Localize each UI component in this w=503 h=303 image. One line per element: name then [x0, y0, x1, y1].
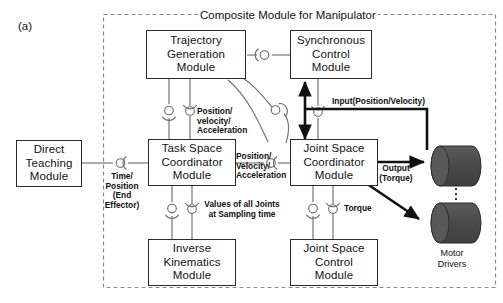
- module-joint-space-control[interactable]: Joint Space Control Module: [290, 239, 378, 286]
- edge-traj-to-joint-curve-b: [284, 114, 289, 143]
- edge-label-torque: Torque: [344, 204, 372, 214]
- edge-label-values-line-2: at Sampling time: [196, 210, 288, 220]
- panel-label: (a): [18, 20, 32, 32]
- module-joint-space-coordinator-line-3: Module: [315, 169, 353, 183]
- ball-icon: [271, 106, 280, 115]
- module-inverse-kinematics[interactable]: Inverse Kinematics Module: [148, 239, 236, 286]
- module-direct-teaching-line-3: Module: [30, 170, 68, 184]
- module-trajectory-generation[interactable]: Trajectory Generation Module: [146, 30, 246, 79]
- module-task-space-coordinator-line-2: Coordinator: [161, 156, 222, 170]
- motor-driver-top: [431, 146, 481, 186]
- edge-label-position-velocity-acceleration-horizontal: Position/ Velocity/ Acceleration: [236, 152, 286, 181]
- module-joint-space-control-line-1: Joint Space: [303, 242, 364, 256]
- module-inverse-kinematics-line-2: Kinematics: [163, 256, 220, 270]
- edge-label-output-torque-line-2: (Torque): [371, 174, 421, 184]
- module-trajectory-generation-line-3: Module: [177, 61, 215, 75]
- module-joint-space-control-line-2: Control: [315, 256, 353, 270]
- edge-label-output-torque: Output (Torque): [371, 164, 421, 183]
- module-joint-space-control-line-3: Module: [315, 269, 353, 283]
- module-task-space-coordinator-line-1: Task Space: [162, 142, 222, 156]
- module-synchronous-control-line-2: Control: [312, 48, 350, 62]
- edge-label-pva-h-line-3: Acceleration: [236, 171, 286, 181]
- module-joint-space-coordinator-line-2: Coordinator: [303, 156, 364, 170]
- ball-icon: [168, 204, 177, 213]
- edge-label-values-all-joints: Values of all Joints at Sampling time: [196, 200, 288, 219]
- module-synchronous-control[interactable]: Synchronous Control Module: [290, 30, 372, 79]
- edge-label-input-position-velocity: Input(Position/Velocity): [332, 97, 425, 107]
- module-trajectory-generation-line-1: Trajectory: [170, 34, 222, 48]
- module-synchronous-control-line-1: Synchronous: [297, 34, 365, 48]
- module-direct-teaching-line-2: Teaching: [26, 157, 73, 171]
- module-joint-space-coordinator-line-1: Joint Space: [303, 142, 364, 156]
- motor-drivers-caption-line-1: Motor: [420, 248, 484, 259]
- module-direct-teaching[interactable]: Direct Teaching Module: [16, 140, 82, 187]
- module-inverse-kinematics-line-1: Inverse: [173, 242, 211, 256]
- edge-label-pva-v-line-3: Acceleration: [197, 126, 247, 136]
- edge-label-time-position-line-4: Effector): [100, 201, 144, 211]
- edge-label-time-position: Time/ Position (End Effector): [100, 172, 144, 210]
- module-task-space-coordinator[interactable]: Task Space Coordinator Module: [148, 139, 236, 186]
- motor-driver-bottom: [431, 203, 481, 243]
- diagram-canvas: (a) Composite Module for Manipulator Dir…: [0, 0, 503, 303]
- module-joint-space-coordinator[interactable]: Joint Space Coordinator Module: [290, 139, 378, 186]
- composite-frame-title: Composite Module for Manipulator: [198, 9, 378, 21]
- ball-icon: [260, 51, 269, 60]
- module-trajectory-generation-line-2: Generation: [167, 48, 225, 62]
- ball-icon: [165, 106, 174, 115]
- ball-icon: [309, 204, 318, 213]
- module-inverse-kinematics-line-3: Module: [173, 269, 211, 283]
- module-task-space-coordinator-line-3: Module: [173, 169, 211, 183]
- module-direct-teaching-line-1: Direct: [34, 143, 65, 157]
- motor-drivers-caption: Motor Drivers: [420, 248, 484, 269]
- edge-label-position-velocity-acceleration-vertical: Position/ velocity/ Acceleration: [197, 107, 247, 136]
- module-synchronous-control-line-3: Module: [312, 61, 350, 75]
- motor-drivers-caption-line-2: Drivers: [420, 259, 484, 270]
